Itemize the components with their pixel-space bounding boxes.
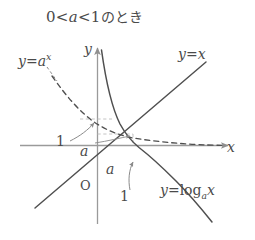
tick-one-pointer-arrow bbox=[70, 123, 94, 141]
exponential-label-leader bbox=[47, 67, 57, 81]
origin-label: O bbox=[80, 179, 91, 192]
logarithm-label-argument: x bbox=[207, 182, 215, 198]
title-variable: a bbox=[69, 8, 78, 26]
exponential-curve bbox=[52, 76, 222, 145]
logarithm-curve-label: y=logax bbox=[160, 183, 215, 200]
exponential-label-base: a bbox=[38, 53, 46, 69]
logarithm-label-function: log bbox=[180, 182, 202, 198]
identity-label-prefix: y= bbox=[178, 46, 198, 62]
identity-label-body: x bbox=[198, 46, 206, 62]
y-axis-tick-a: a bbox=[80, 144, 88, 158]
x-axis-label: x bbox=[227, 140, 235, 154]
exponential-logarithm-graph-figure: 0<a<1のとき y=ax y=x y=logax y x O 1 a a 1 bbox=[0, 0, 255, 240]
x-axis-tick-a: a bbox=[106, 162, 114, 176]
figure-title: 0<a<1のとき bbox=[46, 10, 144, 25]
title-inequality-right: <1 bbox=[78, 8, 101, 26]
title-japanese-suffix: のとき bbox=[101, 9, 144, 25]
exponential-label-prefix: y= bbox=[18, 53, 38, 69]
y-axis-tick-one: 1 bbox=[56, 134, 65, 148]
exponential-curve-label: y=ax bbox=[18, 52, 51, 68]
identity-line-label: y=x bbox=[178, 47, 206, 61]
logarithm-label-prefix: y= bbox=[160, 182, 180, 198]
title-inequality-left: 0< bbox=[46, 8, 69, 26]
exponential-label-exponent: x bbox=[46, 51, 51, 62]
graph-canvas bbox=[0, 0, 255, 240]
tick-x-one-pointer-arrow bbox=[129, 162, 133, 190]
x-axis-tick-one: 1 bbox=[120, 189, 129, 203]
y-axis-label: y bbox=[84, 42, 92, 56]
